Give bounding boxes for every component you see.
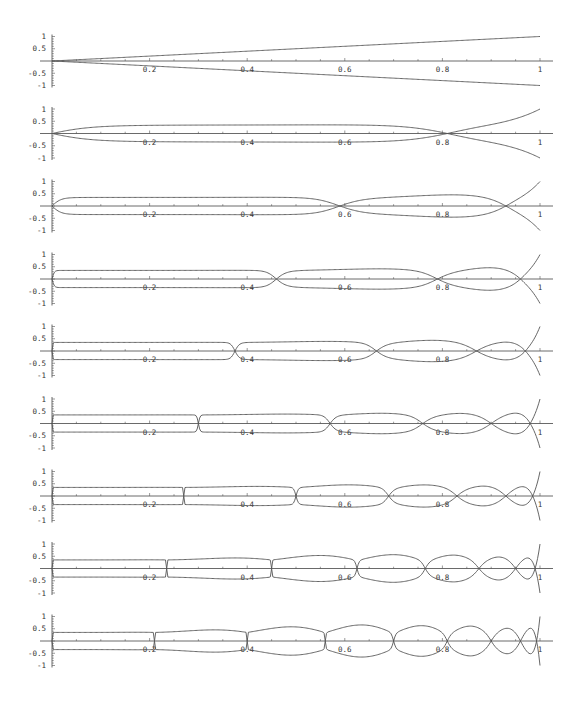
y-tick-label: -0.5 — [28, 141, 46, 150]
x-tick-label: 1 — [538, 65, 543, 74]
x-tick-label: 0.8 — [436, 138, 450, 147]
y-tick-label: -1 — [37, 299, 46, 308]
x-tick-label: 1 — [538, 138, 543, 147]
y-tick-label: -0.5 — [28, 576, 46, 585]
y-tick-label: 1 — [41, 612, 46, 621]
x-tick-label: 0.4 — [240, 500, 254, 509]
curve-positive — [52, 255, 540, 291]
y-tick-label: 1 — [41, 395, 46, 404]
curve-positive — [52, 617, 540, 658]
curve-positive — [52, 472, 540, 508]
y-tick-label: 1 — [41, 540, 46, 549]
y-tick-label: 0.5 — [32, 189, 46, 198]
panel-6: 10.5-0.5-10.20.40.60.81 — [28, 395, 553, 453]
y-tick-label: -1 — [37, 226, 46, 235]
x-tick-label: 0.8 — [436, 65, 450, 74]
y-tick-label: -0.5 — [28, 504, 46, 513]
y-tick-label: -0.5 — [28, 359, 46, 368]
panel-3: 10.5-0.5-10.20.40.60.81 — [28, 177, 553, 235]
y-tick-label: -1 — [37, 516, 46, 525]
curve-positive — [52, 327, 540, 361]
curve-negative — [52, 195, 540, 231]
y-tick-label: -1 — [37, 371, 46, 380]
x-tick-label: 1 — [538, 283, 543, 292]
x-tick-label: 0.6 — [338, 283, 352, 292]
panel-7: 10.5-0.5-10.20.40.60.81 — [28, 467, 553, 525]
y-tick-label: -0.5 — [28, 431, 46, 440]
panel-9: 10.5-0.5-10.20.40.60.81 — [28, 612, 553, 670]
curve-negative — [52, 413, 540, 448]
x-tick-label: 0.4 — [240, 428, 254, 437]
y-tick-label: -1 — [37, 81, 46, 90]
curve-positive — [52, 182, 540, 218]
x-tick-label: 0.6 — [338, 210, 352, 219]
x-tick-label: 0.6 — [338, 355, 352, 364]
x-tick-label: 1 — [538, 573, 543, 582]
stacked-plot-figure: 10.5-0.5-10.20.40.60.8110.5-0.5-10.20.40… — [0, 0, 583, 701]
y-tick-label: 1 — [41, 250, 46, 259]
y-tick-label: 0.5 — [32, 624, 46, 633]
x-tick-label: 0.6 — [338, 645, 352, 654]
y-tick-label: -0.5 — [28, 649, 46, 658]
y-tick-label: 1 — [41, 32, 46, 41]
y-tick-label: -0.5 — [28, 287, 46, 296]
curve-negative — [52, 485, 540, 521]
y-tick-label: 1 — [41, 105, 46, 114]
x-tick-label: 0.6 — [338, 500, 352, 509]
y-tick-label: 0.5 — [32, 479, 46, 488]
x-tick-label: 1 — [538, 355, 543, 364]
panel-4: 10.5-0.5-10.20.40.60.81 — [28, 250, 553, 308]
x-tick-label: 0.4 — [240, 573, 254, 582]
x-tick-label: 1 — [538, 210, 543, 219]
plot-canvas: 10.5-0.5-10.20.40.60.8110.5-0.5-10.20.40… — [0, 0, 583, 701]
y-tick-label: -0.5 — [28, 214, 46, 223]
x-tick-label: 0.8 — [436, 210, 450, 219]
y-tick-label: -0.5 — [28, 69, 46, 78]
curve-positive — [52, 37, 540, 62]
y-tick-label: -1 — [37, 589, 46, 598]
y-tick-label: 0.5 — [32, 407, 46, 416]
curve-negative — [52, 555, 540, 593]
y-tick-label: -1 — [37, 154, 46, 163]
x-tick-label: 0.8 — [436, 283, 450, 292]
x-tick-label: 1 — [538, 500, 543, 509]
curve-positive — [52, 544, 540, 582]
y-tick-label: 0.5 — [32, 262, 46, 271]
y-tick-label: 1 — [41, 322, 46, 331]
y-tick-label: 0.5 — [32, 117, 46, 126]
x-tick-label: 1 — [538, 428, 543, 437]
y-tick-label: 0.5 — [32, 44, 46, 53]
y-tick-label: 0.5 — [32, 552, 46, 561]
curve-negative — [52, 268, 540, 304]
panel-5: 10.5-0.5-10.20.40.60.81 — [28, 322, 553, 380]
curve-negative — [52, 61, 540, 86]
curve-negative — [52, 341, 540, 375]
y-tick-label: 0.5 — [32, 334, 46, 343]
panel-2: 10.5-0.5-10.20.40.60.81 — [28, 105, 553, 163]
y-tick-label: -1 — [37, 661, 46, 670]
y-tick-label: 1 — [41, 467, 46, 476]
x-tick-label: 0.4 — [240, 65, 254, 74]
x-tick-label: 0.4 — [240, 645, 254, 654]
curve-negative — [52, 625, 540, 666]
curve-positive — [52, 399, 540, 434]
panel-1: 10.5-0.5-10.20.40.60.81 — [28, 32, 553, 90]
x-tick-label: 0.6 — [338, 65, 352, 74]
y-tick-label: 1 — [41, 177, 46, 186]
x-tick-label: 0.8 — [436, 355, 450, 364]
y-tick-label: -1 — [37, 444, 46, 453]
panel-8: 10.5-0.5-10.20.40.60.81 — [28, 540, 553, 598]
